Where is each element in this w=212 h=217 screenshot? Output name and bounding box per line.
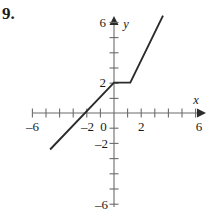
graph-figure: 9. <box>0 0 212 217</box>
x-axis-label: x <box>192 93 199 107</box>
coordinate-plane-svg: –6 –2 0 2 6 6 2 –2 –6 x y <box>0 0 212 217</box>
y-axis-label: y <box>121 17 129 31</box>
y-tick-label-neg6: –6 <box>94 197 109 212</box>
problem-number-label: 9. <box>2 5 15 22</box>
x-tick-label-neg6: –6 <box>25 119 40 134</box>
y-tick-label-6: 6 <box>100 15 107 30</box>
x-axis-arrow-icon <box>197 109 206 118</box>
x-tick-label-zero: 0 <box>100 119 107 134</box>
y-tick-label-2: 2 <box>100 75 107 90</box>
y-tick-label-neg2: –2 <box>94 136 108 151</box>
x-tick-label-6: 6 <box>196 119 203 134</box>
x-tick-label-2: 2 <box>138 119 145 134</box>
y-axis-arrow-icon <box>110 16 119 25</box>
x-tick-label-neg2: –2 <box>80 119 94 134</box>
